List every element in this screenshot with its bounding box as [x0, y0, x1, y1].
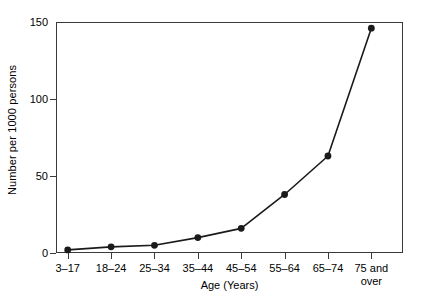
x-tick-mark: [328, 253, 329, 259]
y-tick-mark: [50, 253, 56, 254]
line-chart: Number per 1000 persons 050100150 Age (Y…: [0, 0, 421, 300]
y-axis-tick-labels: 050100150: [16, 0, 48, 300]
x-tick-mark: [68, 253, 69, 259]
x-tick-label: 75 andover: [338, 262, 404, 288]
x-tick-label-line: 75 and: [355, 262, 389, 274]
y-tick-label: 150: [20, 17, 48, 28]
x-tick-mark: [154, 253, 155, 259]
y-tick-label: 0: [20, 248, 48, 259]
x-tick-mark: [198, 253, 199, 259]
x-tick-label-line: over: [338, 275, 404, 288]
x-tick-label-line: 3–17: [55, 262, 79, 274]
y-tick-mark: [50, 176, 56, 177]
plot-area: [56, 22, 403, 253]
x-tick-mark: [241, 253, 242, 259]
y-tick-label: 100: [20, 94, 48, 105]
x-tick-mark: [371, 253, 372, 259]
y-tick-label: 50: [20, 171, 48, 182]
y-tick-mark: [50, 99, 56, 100]
x-tick-mark: [111, 253, 112, 259]
x-tick-mark: [285, 253, 286, 259]
